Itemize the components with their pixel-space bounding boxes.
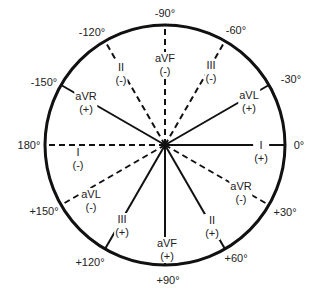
lead-polarity: (-) — [230, 193, 251, 206]
angle-label: -60° — [226, 25, 246, 36]
lead-name: aVF — [155, 52, 175, 65]
angle-label: +90° — [156, 275, 179, 286]
lead-polarity: (+) — [239, 102, 259, 115]
lead-polarity: (+) — [75, 103, 96, 116]
lead-label: II(-) — [115, 61, 128, 87]
lead-name: II — [116, 61, 127, 74]
lead-polarity: (-) — [81, 201, 101, 214]
lead-polarity: (+) — [254, 152, 268, 165]
angle-label: -150° — [31, 77, 57, 88]
lead-polarity: (-) — [206, 72, 217, 85]
angle-label: 0° — [294, 140, 305, 151]
lead-label: aVL(+) — [238, 89, 260, 115]
angle-label: -90° — [155, 8, 175, 19]
lead-name: II — [205, 214, 219, 227]
lead-polarity: (-) — [73, 159, 84, 172]
lead-label: II(+) — [204, 214, 220, 240]
angle-label: -30° — [281, 74, 301, 85]
lead-polarity: (-) — [116, 74, 127, 87]
lead-name: I — [254, 139, 268, 152]
angle-label: -120° — [79, 27, 105, 38]
lead-label: I(-) — [72, 146, 85, 172]
lead-polarity: (+) — [205, 227, 219, 240]
angle-label: +60° — [224, 253, 247, 264]
lead-polarity: (+) — [115, 226, 129, 239]
lead-label: aVR(-) — [229, 180, 252, 206]
lead-polarity: (+) — [157, 250, 177, 263]
angle-label: +120° — [75, 257, 104, 268]
lead-label: aVL(-) — [80, 188, 102, 214]
lead-name: aVL — [81, 188, 101, 201]
lead-label: aVR(+) — [74, 90, 97, 116]
lead-label: I(+) — [253, 139, 269, 165]
lead-polarity: (-) — [155, 65, 175, 78]
lead-name: aVR — [75, 90, 96, 103]
lead-label: III(+) — [114, 213, 130, 239]
angle-label: +30° — [273, 207, 296, 218]
center-point — [162, 142, 168, 148]
lead-name: aVF — [157, 237, 177, 250]
lead-name: I — [73, 146, 84, 159]
lead-label: III(-) — [205, 59, 218, 85]
lead-label: aVF(+) — [156, 237, 178, 263]
lead-name: aVL — [239, 89, 259, 102]
lead-name: III — [115, 213, 129, 226]
lead-name: aVR — [230, 180, 251, 193]
lead-label: aVF(-) — [154, 52, 176, 78]
lead-name: III — [206, 59, 217, 72]
angle-label: 180° — [18, 140, 41, 151]
angle-label: +150° — [29, 206, 58, 217]
